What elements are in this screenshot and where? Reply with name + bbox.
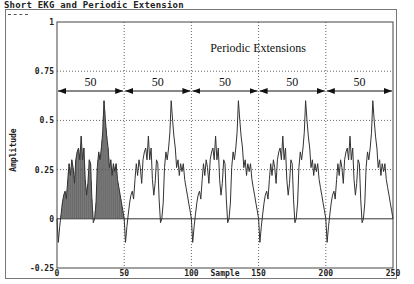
svg-text:50: 50 [353,75,365,89]
ekg-chart: 050100150200250-0.2500.250.50.751 505050… [0,0,414,284]
y-axis-label: Amplitude [8,128,18,172]
period-annotations: 5050505050 [58,75,392,91]
svg-text:150: 150 [251,269,266,278]
svg-text:1: 1 [49,18,54,27]
svg-text:50: 50 [286,75,298,89]
svg-text:-0.25: -0.25 [30,264,54,273]
svg-text:50: 50 [152,75,164,89]
svg-text:250: 250 [386,269,401,278]
annotation-periodic-extensions: Periodic Extensions [210,41,306,55]
x-axis-label: Sample [211,269,240,278]
svg-text:0: 0 [49,215,54,224]
svg-text:0.75: 0.75 [35,67,54,76]
svg-text:0.25: 0.25 [35,166,54,175]
svg-text:0: 0 [55,269,60,278]
svg-text:50: 50 [219,75,231,89]
svg-text:50: 50 [85,75,97,89]
svg-text:0.5: 0.5 [40,116,55,125]
svg-text:50: 50 [119,269,129,278]
svg-text:100: 100 [184,269,199,278]
svg-text:200: 200 [319,269,334,278]
